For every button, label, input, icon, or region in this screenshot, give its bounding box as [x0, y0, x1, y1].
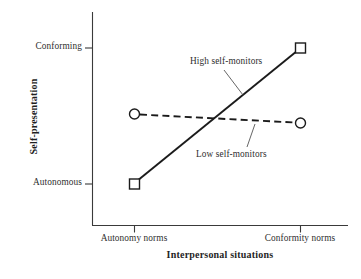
x-axis-title: Interpersonal situations: [92, 249, 348, 260]
x-tick-label-conformity-norms: Conformity norms: [254, 233, 346, 243]
leader-line-low-self-monitors: [247, 124, 255, 147]
chart-figure: Conforming Autonomous Autonomy norms Con…: [0, 0, 361, 279]
x-tick-label-autonomy-norms: Autonomy norms: [88, 233, 180, 243]
y-tick-label-conforming: Conforming: [16, 41, 82, 51]
marker-circle-conformity-norms: [296, 118, 306, 128]
y-tick-label-autonomous: Autonomous: [14, 177, 82, 187]
series-annotation-high-self-monitors: High self-monitors: [190, 56, 262, 66]
series-line-high-self-monitors: [137, 51, 297, 181]
series-annotation-low-self-monitors: Low self-monitors: [196, 149, 267, 159]
marker-circle-autonomy-norms: [130, 109, 140, 119]
marker-square-autonomy-norms: [130, 179, 140, 189]
marker-square-conformity-norms: [296, 43, 306, 53]
leader-line-high-self-monitors: [224, 70, 243, 95]
y-axis-title: Self-presentation: [28, 37, 39, 197]
